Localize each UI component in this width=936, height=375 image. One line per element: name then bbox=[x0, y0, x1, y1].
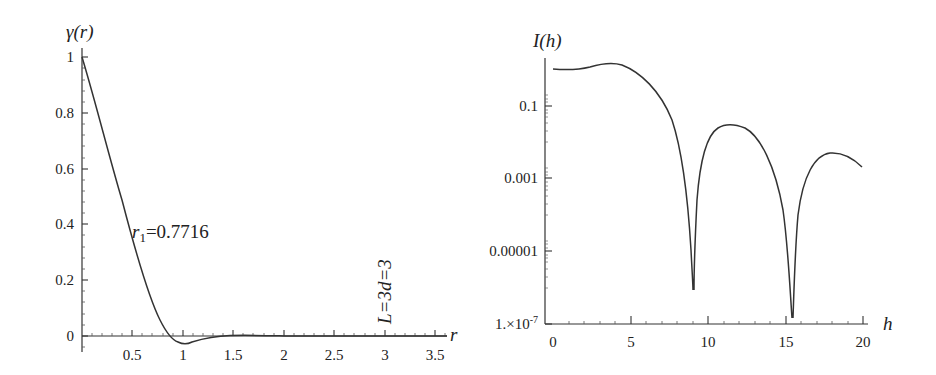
right-y-tick-label: 0.1 bbox=[519, 98, 538, 114]
left-y-tick-label: 0.8 bbox=[55, 105, 74, 121]
right-x-tick-label: 5 bbox=[627, 334, 635, 350]
left-x-tick-label: 3.5 bbox=[426, 347, 445, 363]
right-x-tick-label: 0 bbox=[549, 334, 557, 350]
right-y-tick-label: 1.×10-7 bbox=[495, 314, 538, 332]
right-x-axis-title: h bbox=[883, 313, 893, 334]
r1-annotation: r1=0.7716 bbox=[132, 221, 209, 245]
right-x-major-ticks bbox=[631, 316, 863, 324]
left-x-tick-label: 2.5 bbox=[325, 347, 344, 363]
right-y-tick-label: 0.001 bbox=[504, 170, 538, 186]
left-y-tick-label: 0.6 bbox=[55, 161, 74, 177]
figure-canvas: 0 0.2 0.4 0.6 0.8 1 0.5 1 1.5 2 2.5 3 3.… bbox=[0, 0, 936, 375]
right-y-tick-label: 0.00001 bbox=[489, 243, 538, 259]
left-y-tick-label: 1 bbox=[67, 49, 75, 65]
right-x-tick-label: 15 bbox=[779, 334, 794, 350]
left-x-major-ticks bbox=[132, 330, 435, 336]
left-y-tick-label: 0.2 bbox=[55, 272, 74, 288]
right-x-tick-labels: 0 5 10 15 20 bbox=[549, 334, 870, 350]
left-chart: 0 0.2 0.4 0.6 0.8 1 0.5 1 1.5 2 2.5 3 3.… bbox=[55, 21, 458, 363]
right-x-tick-label: 20 bbox=[856, 334, 871, 350]
right-chart: 0.1 0.001 0.00001 1.×10-7 0 5 10 15 20 I… bbox=[489, 30, 892, 350]
left-x-tick-label: 3 bbox=[381, 347, 389, 363]
left-x-tick-label: 0.5 bbox=[123, 347, 142, 363]
left-x-tick-label: 1.5 bbox=[224, 347, 243, 363]
intensity-curve bbox=[553, 64, 862, 318]
right-y-tick-labels: 0.1 0.001 0.00001 1.×10-7 bbox=[489, 98, 538, 332]
right-y-axis-title: I(h) bbox=[532, 30, 561, 52]
left-x-tick-label: 2 bbox=[280, 347, 288, 363]
right-x-tick-label: 10 bbox=[701, 334, 716, 350]
left-x-tick-label: 1 bbox=[179, 347, 187, 363]
left-y-tick-labels: 0 0.2 0.4 0.6 0.8 1 bbox=[55, 49, 74, 344]
left-y-major-ticks bbox=[82, 57, 88, 336]
L-annotation: L=3d=3 bbox=[374, 259, 395, 325]
left-y-tick-label: 0 bbox=[67, 328, 75, 344]
left-x-tick-labels: 0.5 1 1.5 2 2.5 3 3.5 bbox=[123, 347, 445, 363]
left-y-tick-label: 0.4 bbox=[55, 216, 74, 232]
left-x-axis-title: r bbox=[450, 324, 458, 345]
left-y-axis-title: γ(r) bbox=[66, 21, 94, 43]
